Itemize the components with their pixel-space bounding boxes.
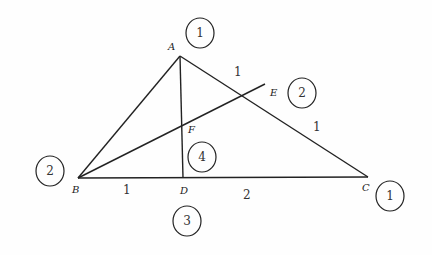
point-label-F: F bbox=[187, 124, 196, 135]
point-label-A: A bbox=[167, 41, 175, 52]
length-label-DC: 2 bbox=[243, 188, 251, 202]
circled-number-B: 2 bbox=[36, 156, 64, 186]
length-label-EC: 1 bbox=[313, 120, 321, 134]
circled-number-F: 4 bbox=[188, 142, 216, 172]
circled-number-D: 3 bbox=[173, 206, 201, 236]
point-label-E: E bbox=[269, 87, 278, 98]
segment-BC bbox=[78, 177, 368, 178]
segment-BE bbox=[78, 84, 265, 178]
point-label-C: C bbox=[362, 182, 370, 193]
length-label-BD: 1 bbox=[123, 183, 131, 197]
triangle-diagram: A B C D E F 1 1 1 2 1 2 2 4 3 bbox=[0, 0, 432, 255]
segment-AC bbox=[180, 56, 368, 177]
circled-number-A: 1 bbox=[186, 18, 214, 48]
circled-number-C: 1 bbox=[376, 181, 404, 211]
point-label-D: D bbox=[179, 185, 188, 196]
circled-number-E: 2 bbox=[288, 78, 316, 108]
segment-AB bbox=[78, 56, 180, 178]
svg-text:2: 2 bbox=[298, 86, 306, 100]
svg-text:1: 1 bbox=[196, 26, 204, 40]
length-label-AE: 1 bbox=[234, 65, 242, 79]
svg-text:3: 3 bbox=[183, 214, 191, 228]
svg-text:1: 1 bbox=[386, 189, 394, 203]
point-label-B: B bbox=[71, 184, 79, 195]
diagram-canvas: A B C D E F 1 1 1 2 1 2 2 4 3 bbox=[0, 0, 432, 255]
svg-text:2: 2 bbox=[46, 164, 54, 178]
segment-AD bbox=[180, 56, 183, 178]
svg-text:4: 4 bbox=[198, 150, 206, 164]
